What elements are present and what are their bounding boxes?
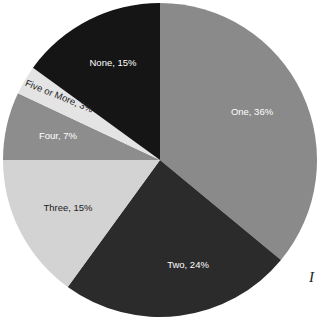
slice-label-four: Four, 7% [39, 130, 78, 141]
slice-label-none: None, 15% [89, 57, 137, 68]
cut-off-side-text: I c S c I [309, 230, 318, 321]
slice-label-one: One, 36% [231, 106, 274, 117]
slice-label-three: Three, 15% [43, 202, 93, 213]
slice-label-two: Two, 24% [167, 259, 209, 270]
side-text-line: I [309, 268, 318, 287]
pie-slices [3, 3, 317, 317]
pie-chart: One, 36%Two, 24%Three, 15%Four, 7%Five o… [0, 0, 318, 321]
